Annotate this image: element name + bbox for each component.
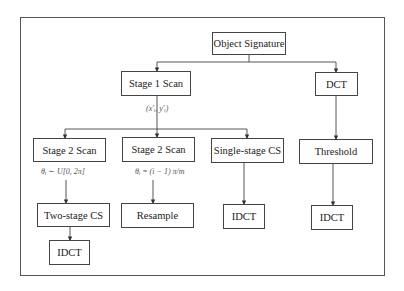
node-idct-two-stage: IDCT bbox=[49, 240, 90, 265]
edge-label-uniform-angle: θᵢ = (i − 1) π/m bbox=[135, 167, 185, 176]
edge-label-random-angle: θᵢ ∼ U[0, 2π] bbox=[41, 167, 85, 176]
node-resample: Resample bbox=[121, 203, 194, 228]
node-idct-threshold: IDCT bbox=[311, 205, 353, 230]
edge-label-stage1-output: (x′ᵢ, y′ᵢ) bbox=[146, 104, 168, 113]
node-object-signature: Object Signature bbox=[212, 32, 286, 55]
node-stage2-scan-uniform: Stage 2 Scan bbox=[122, 137, 195, 162]
node-single-stage-cs: Single-stage CS bbox=[211, 138, 284, 163]
node-two-stage-cs: Two-stage CS bbox=[37, 203, 110, 227]
node-idct-single: IDCT bbox=[223, 204, 265, 229]
node-stage2-scan-random: Stage 2 Scan bbox=[33, 138, 106, 162]
node-stage1-scan: Stage 1 Scan bbox=[121, 71, 191, 96]
node-threshold: Threshold bbox=[299, 139, 373, 164]
node-dct: DCT bbox=[315, 72, 358, 96]
